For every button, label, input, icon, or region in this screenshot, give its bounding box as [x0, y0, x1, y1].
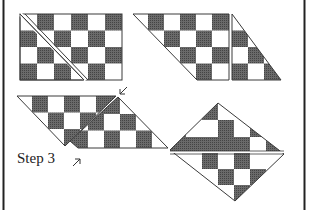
- figure-2: [130, 14, 282, 80]
- quilt-diagram: [0, 0, 311, 210]
- diagram-frame: [0, 0, 311, 210]
- arrow-top-icon: [120, 87, 127, 94]
- arrow-bottom-icon: [73, 159, 80, 166]
- step-label: Step 3: [17, 150, 55, 167]
- figure-4: [168, 100, 288, 204]
- figure-1: [20, 14, 122, 80]
